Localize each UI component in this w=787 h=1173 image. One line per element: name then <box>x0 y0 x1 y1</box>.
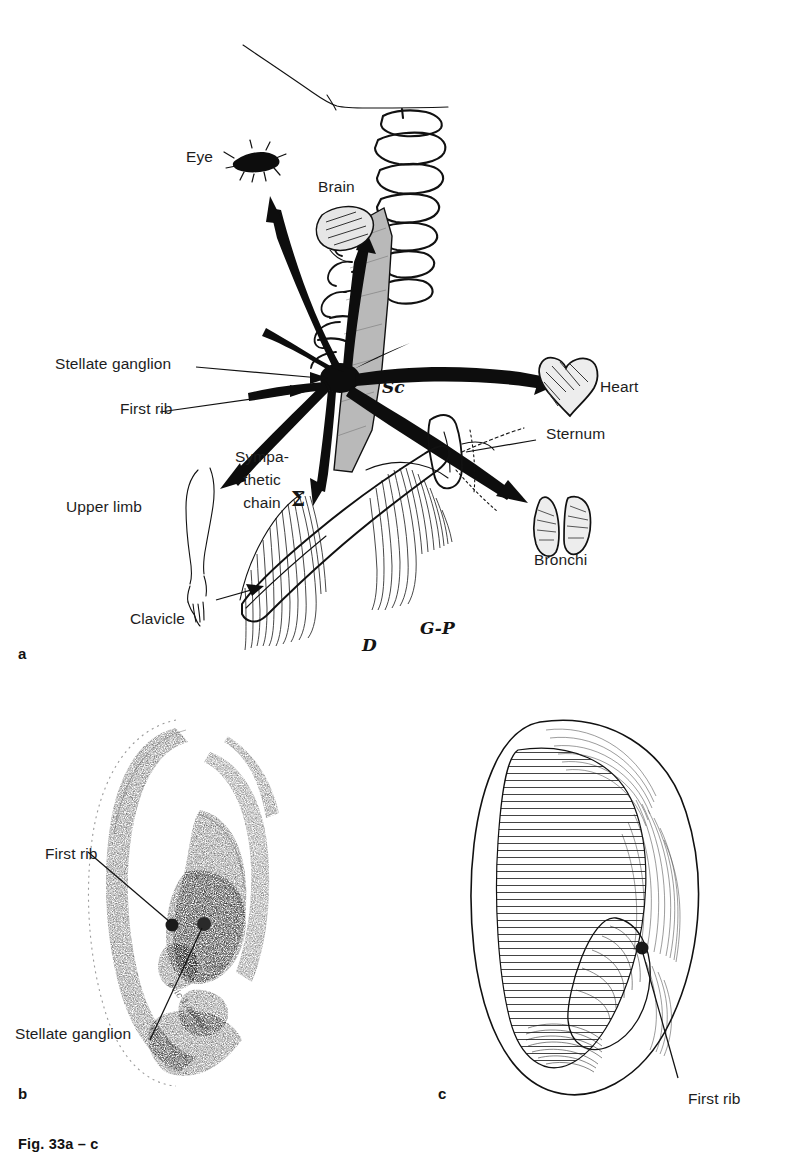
label-upper-limb: Upper limb <box>66 498 142 517</box>
panel-a-illustration <box>0 0 787 700</box>
deltoid-muscle-fibres <box>245 496 326 650</box>
upper-limb-sketch <box>186 468 214 626</box>
leader-stellate-ganglion <box>196 367 320 378</box>
panel-c-illustration <box>420 700 787 1120</box>
ear-stipple-shading <box>80 700 340 1120</box>
label-stellate-ganglion: Stellate ganglion <box>55 355 171 374</box>
handwritten-sigma-annotation: Σ <box>291 487 305 511</box>
label-brain: Brain <box>318 178 355 197</box>
panel-letter-b: b <box>18 1085 27 1102</box>
label-bronchi: Bronchi <box>534 551 587 570</box>
label-sympathetic-chain-line2: thetic <box>222 471 302 490</box>
handwritten-deltoid-annotation: D <box>362 635 377 655</box>
panel-b-illustration: evic 1.aurear <box>0 700 420 1120</box>
label-sympathetic-chain-line3: chain <box>222 494 302 513</box>
label-clavicle: Clavicle <box>130 610 185 629</box>
leader-first-rib <box>160 392 300 412</box>
label-sternum: Sternum <box>546 425 605 444</box>
stellate-ganglion-point[interactable] <box>197 917 211 931</box>
label-eye: Eye <box>186 148 213 167</box>
neck-profile-contour <box>243 45 448 110</box>
heart-pictogram <box>539 358 597 416</box>
figure-caption: Fig. 33a – c <box>18 1136 99 1152</box>
handwritten-sc-annotation: Sc <box>382 377 405 397</box>
label-stellate-ganglion-b: Stellate ganglion <box>15 1025 131 1044</box>
bronchi-pictogram <box>534 497 591 556</box>
label-heart: Heart <box>600 378 638 397</box>
label-first-rib-b: First rib <box>45 845 98 864</box>
first-rib-point-c[interactable] <box>636 942 649 955</box>
label-sympathetic-chain-line1: Sympa- <box>222 448 302 467</box>
eye-pictogram <box>224 140 286 182</box>
handwritten-pectoralis-annotation: G-P <box>420 618 455 638</box>
panel-letter-c: c <box>438 1085 446 1102</box>
label-first-rib: First rib <box>120 400 173 419</box>
figure-page: Eye Brain Stellate ganglion First rib Sy… <box>0 0 787 1173</box>
label-first-rib-c: First rib <box>688 1090 741 1109</box>
panel-letter-a: a <box>18 645 26 662</box>
